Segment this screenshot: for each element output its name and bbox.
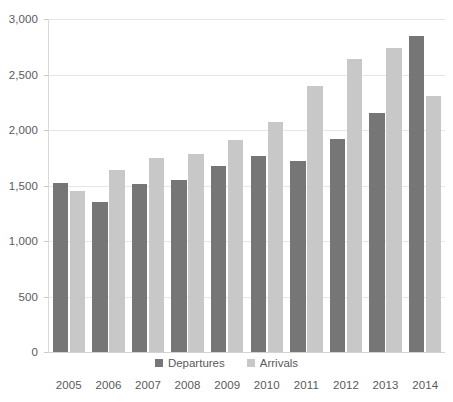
bar-arrivals-2010 <box>268 122 284 352</box>
bar-departures-2006 <box>92 202 108 352</box>
y-tick-mark <box>44 297 48 298</box>
bars-layer <box>49 19 445 352</box>
y-axis: 05001,0001,5002,0002,5003,000 <box>0 0 44 402</box>
x-tick-label-2011: 2011 <box>294 379 319 391</box>
legend-item-arrivals[interactable]: Arrivals <box>247 357 298 369</box>
bar-departures-2008 <box>171 180 187 352</box>
bar-arrivals-2008 <box>188 154 204 352</box>
y-tick-label: 2,500 <box>9 69 38 81</box>
bar-departures-2009 <box>211 166 227 352</box>
legend-item-departures[interactable]: Departures <box>155 357 225 369</box>
bar-departures-2010 <box>251 156 267 352</box>
bar-arrivals-2005 <box>70 191 86 352</box>
x-tick-label-2007: 2007 <box>135 379 161 391</box>
y-tick-mark <box>44 130 48 131</box>
bar-departures-2005 <box>53 183 69 352</box>
bar-arrivals-2006 <box>109 170 125 352</box>
axis-baseline <box>49 352 445 353</box>
bar-departures-2011 <box>290 161 306 352</box>
y-tick-mark <box>44 186 48 187</box>
chart-legend: DeparturesArrivals <box>0 357 453 369</box>
x-tick-label-2012: 2012 <box>333 379 359 391</box>
x-axis: 2005200620072008200920102011201220132014 <box>49 379 445 399</box>
bar-arrivals-2013 <box>386 48 402 352</box>
y-tick-label: 1,000 <box>9 235 38 247</box>
bar-arrivals-2011 <box>307 86 323 352</box>
x-tick-label-2006: 2006 <box>95 379 121 391</box>
y-tick-label: 1,500 <box>9 180 38 192</box>
x-tick-label-2008: 2008 <box>175 379 201 391</box>
y-tick-label: 500 <box>19 291 39 303</box>
bar-arrivals-2007 <box>149 158 165 352</box>
y-tick-mark <box>44 19 48 20</box>
y-tick-label: 3,000 <box>9 13 38 25</box>
y-tick-mark <box>44 241 48 242</box>
bar-arrivals-2009 <box>228 140 244 352</box>
legend-swatch-icon <box>247 359 255 367</box>
bar-departures-2007 <box>132 184 148 352</box>
bar-arrivals-2014 <box>426 96 442 352</box>
legend-label: Arrivals <box>260 357 298 369</box>
x-tick-label-2014: 2014 <box>412 379 438 391</box>
x-tick-label-2009: 2009 <box>214 379 240 391</box>
y-tick-mark <box>44 75 48 76</box>
y-tick-mark <box>44 352 48 353</box>
bar-chart: 05001,0001,5002,0002,5003,000 Departures… <box>0 0 453 402</box>
bar-departures-2013 <box>369 113 385 352</box>
bar-arrivals-2012 <box>347 59 363 352</box>
x-tick-label-2005: 2005 <box>56 379 82 391</box>
legend-swatch-icon <box>155 359 163 367</box>
legend-label: Departures <box>168 357 225 369</box>
bar-departures-2014 <box>409 36 425 352</box>
x-tick-label-2010: 2010 <box>254 379 280 391</box>
bar-departures-2012 <box>330 139 346 352</box>
x-tick-label-2013: 2013 <box>373 379 399 391</box>
y-tick-label: 2,000 <box>9 124 38 136</box>
plot-area <box>49 19 445 352</box>
